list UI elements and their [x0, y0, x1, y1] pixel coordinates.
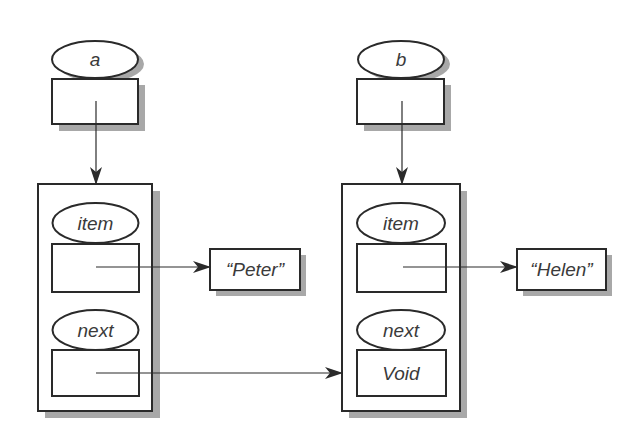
reference-b-cell — [357, 79, 444, 124]
node-2-next-value: Void — [382, 363, 421, 384]
string-object-peter: “Peter” — [210, 249, 306, 296]
reference-b: b — [357, 41, 451, 131]
helen-value: “Helen” — [530, 259, 594, 280]
node-2-item-field-label: item — [383, 213, 419, 234]
node-2-item-cell — [357, 244, 446, 292]
linked-list-diagram: a b item next item next Void — [0, 0, 635, 436]
string-object-helen: “Helen” — [517, 249, 612, 296]
node-1-item-cell — [52, 244, 139, 292]
reference-b-label: b — [396, 49, 407, 70]
node-1-next-field-label: next — [78, 320, 115, 341]
list-node-2: item next Void — [342, 184, 467, 418]
peter-value: “Peter” — [226, 259, 286, 280]
reference-a-label: a — [90, 49, 101, 70]
reference-a-cell — [52, 79, 138, 124]
reference-a: a — [52, 41, 145, 131]
node-2-next-field-label: next — [383, 320, 420, 341]
list-node-1: item next — [38, 184, 160, 418]
node-1-item-field-label: item — [78, 213, 114, 234]
